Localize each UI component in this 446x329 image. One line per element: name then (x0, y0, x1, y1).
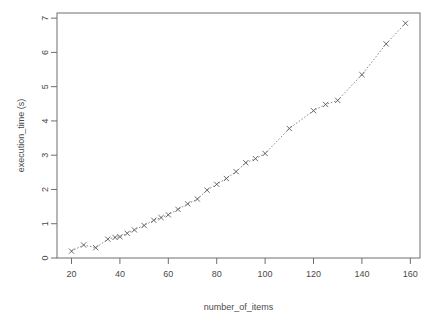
y-tick-label: 1 (40, 221, 50, 226)
data-point (195, 196, 200, 201)
y-tick-label: 5 (40, 84, 50, 89)
x-tick-label: 120 (306, 269, 321, 279)
data-point (204, 188, 209, 193)
x-tick-label: 160 (403, 269, 418, 279)
data-point (166, 212, 171, 217)
data-point (233, 169, 238, 174)
data-point (132, 227, 137, 232)
data-point (158, 215, 163, 220)
data-point (81, 242, 86, 247)
data-point (335, 98, 340, 103)
y-tick-label: 6 (40, 50, 50, 55)
data-point (105, 237, 110, 242)
x-tick-label: 60 (163, 269, 173, 279)
x-axis-title: number_of_items (204, 302, 274, 312)
x-tick-label: 20 (67, 269, 77, 279)
data-point (359, 72, 364, 77)
data-point (253, 156, 258, 161)
trend-line-group (72, 23, 406, 251)
x-tick-label: 40 (115, 269, 125, 279)
data-point (287, 126, 292, 131)
x-tick-label: 140 (354, 269, 369, 279)
axis-labels-group: 2040608010012014016001234567number_of_it… (16, 16, 418, 312)
data-point (311, 108, 316, 113)
data-point (112, 235, 117, 240)
x-tick-label: 80 (212, 269, 222, 279)
data-point (175, 207, 180, 212)
y-tick-label: 3 (40, 153, 50, 158)
data-point (243, 160, 248, 165)
data-point (151, 218, 156, 223)
data-point (185, 201, 190, 206)
y-axis-title: execution_time (s) (16, 99, 26, 173)
data-point (214, 182, 219, 187)
trend-line (72, 23, 406, 251)
chart-figure: 2040608010012014016001234567number_of_it… (0, 0, 446, 329)
y-tick-label: 7 (40, 16, 50, 21)
x-tick-label: 100 (258, 269, 273, 279)
data-point (69, 249, 74, 254)
data-point (125, 231, 130, 236)
y-tick-label: 2 (40, 187, 50, 192)
data-point (323, 102, 328, 107)
plot-frame (57, 13, 420, 258)
data-point (263, 151, 268, 156)
y-tick-label: 0 (40, 255, 50, 260)
scatter-plot-canvas: 2040608010012014016001234567number_of_it… (0, 0, 446, 329)
axes-group (51, 13, 420, 264)
data-point (384, 41, 389, 46)
data-point (403, 21, 408, 26)
data-points-group (69, 21, 408, 254)
data-point (142, 223, 147, 228)
y-tick-label: 4 (40, 118, 50, 123)
data-point (224, 176, 229, 181)
